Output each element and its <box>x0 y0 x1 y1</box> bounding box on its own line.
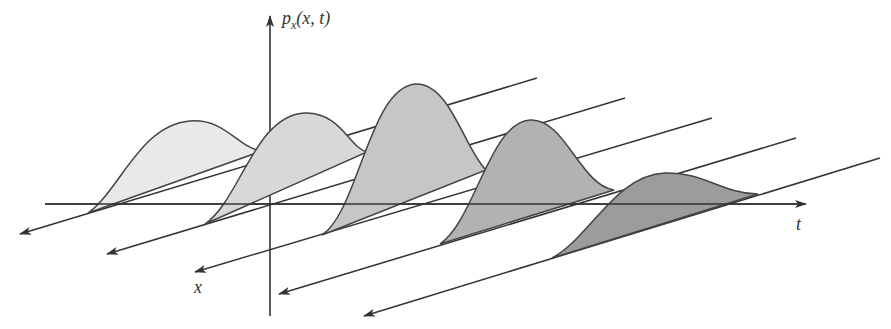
density-evolution-diagram: px(x, t) t x <box>0 0 891 329</box>
p-axis-label: px(x, t) <box>280 8 330 32</box>
t-axis-label: t <box>796 214 802 234</box>
x-axis-label: x <box>193 277 202 297</box>
